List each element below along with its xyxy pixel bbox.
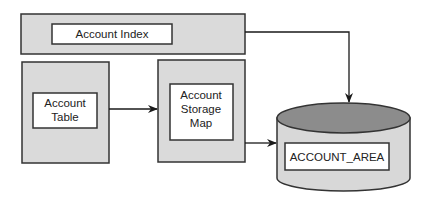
cylinder-top (277, 103, 410, 133)
account-storage-map-node: Account Storage Map (158, 60, 245, 162)
account-index-node: Account Index (21, 14, 245, 54)
account-table-node: Account Table (22, 62, 109, 163)
account-area-node: ACCOUNT_AREA (277, 103, 410, 191)
account-storage-map-label-line-1: Account (180, 89, 222, 101)
account-table-label-line-2: Table (51, 111, 79, 123)
account-area-label: ACCOUNT_AREA (290, 151, 385, 163)
account-table-label-line-1: Account (44, 97, 86, 109)
diagram-canvas: Account Index Account Table Account Stor… (0, 0, 432, 201)
account-index-label: Account Index (76, 28, 149, 40)
account-storage-map-label-line-3: Map (190, 117, 212, 129)
account-storage-map-label-line-2: Storage (181, 103, 221, 115)
edge-index-to-area (245, 32, 349, 102)
